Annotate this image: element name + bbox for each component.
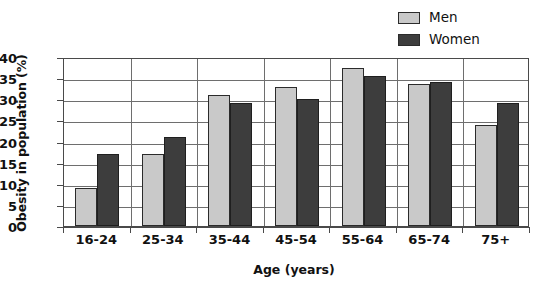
y-tick-label: 15 [0,156,17,171]
bar-chart: Men Women Obesity in population (%) Age … [0,0,553,293]
y-tick-label: 40 [0,51,17,66]
y-tick-label: 0 [0,220,17,235]
x-tick-mark [462,227,463,233]
legend-label-men: Men [429,11,458,25]
legend-swatch-men-icon [398,12,420,24]
x-tick-mark [196,227,197,233]
bar-men [75,188,97,226]
y-tick-label: 5 [0,198,17,213]
legend-swatch-women-icon [398,34,420,46]
bar-women [430,82,452,226]
legend-label-women: Women [429,33,480,47]
x-tick-mark [130,227,131,233]
bar-women [297,99,319,226]
bar-group [64,59,131,226]
bar-men [408,84,430,226]
x-axis-line [57,227,529,228]
x-tick-mark [63,227,64,233]
y-tick-label: 25 [0,114,17,129]
bar-group [131,59,198,226]
x-tick-label: 65-74 [408,232,450,247]
legend-item-women: Women [398,30,548,50]
x-tick-label: 55-64 [342,232,384,247]
legend-item-men: Men [398,8,548,28]
x-tick-mark [263,227,264,233]
x-tick-mark [529,227,530,233]
x-tick-label: 25-34 [142,232,184,247]
bar-men [142,154,164,226]
x-tick-label: 75+ [481,232,510,247]
plot-area [63,58,529,227]
bar-women [164,137,186,226]
bar-men [475,125,497,226]
bar-group [330,59,397,226]
bar-men [208,95,230,226]
bar-group [197,59,264,226]
y-tick-label: 30 [0,93,17,108]
x-tick-label: 16-24 [75,232,117,247]
bar-group [397,59,464,226]
x-tick-mark [396,227,397,233]
y-axis-title: Obesity in population (%) [14,50,36,236]
bar-group [264,59,331,226]
chart-legend: Men Women [398,8,548,52]
x-tick-mark [329,227,330,233]
bar-women [497,103,519,226]
bar-men [275,87,297,226]
bar-group [463,59,530,226]
x-tick-label: 35-44 [209,232,251,247]
y-tick-label: 10 [0,177,17,192]
x-tick-label: 45-54 [275,232,317,247]
y-tick-label: 35 [0,72,17,87]
x-axis-title: Age (years) [59,262,529,277]
bar-men [342,68,364,226]
bar-women [230,103,252,226]
bar-women [97,154,119,226]
bar-women [364,76,386,226]
y-tick-label: 20 [0,135,17,150]
